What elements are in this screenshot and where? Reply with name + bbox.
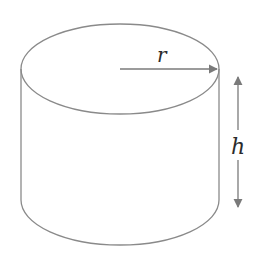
cylinder-diagram: r h [0,0,255,254]
radius-label: r [157,43,168,67]
cylinder-bottom-arc [21,200,219,245]
height-label: h [231,134,245,159]
